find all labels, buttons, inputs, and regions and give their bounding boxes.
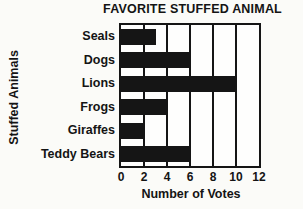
bar-teddy-bears <box>121 146 190 162</box>
category-label-teddy-bears: Teddy Bears <box>5 143 115 167</box>
category-label-frogs: Frogs <box>5 96 115 120</box>
plot-area <box>119 23 261 168</box>
gridline-10 <box>235 25 237 166</box>
category-label-seals: Seals <box>5 25 115 49</box>
bar-seals <box>121 29 156 45</box>
gridline-4 <box>166 25 168 166</box>
x-tick-label-8: 8 <box>202 170 224 184</box>
x-tick-label-12: 12 <box>248 170 270 184</box>
gridline-8 <box>212 25 214 166</box>
category-label-dogs: Dogs <box>5 49 115 73</box>
x-tick-label-4: 4 <box>156 170 178 184</box>
x-axis-label: Number of Votes <box>120 187 262 201</box>
bar-dogs <box>121 52 190 68</box>
bar-giraffes <box>121 123 144 139</box>
category-label-giraffes: Giraffes <box>5 119 115 143</box>
bar-lions <box>121 76 236 92</box>
x-tick-label-2: 2 <box>133 170 155 184</box>
x-tick-label-10: 10 <box>225 170 247 184</box>
gridline-2 <box>143 25 145 166</box>
x-tick-label-6: 6 <box>179 170 201 184</box>
x-tick-label-0: 0 <box>110 170 132 184</box>
chart: FAVORITE STUFFED ANIMAL Stuffed Animals … <box>0 0 303 209</box>
bar-frogs <box>121 99 167 115</box>
gridline-6 <box>189 25 191 166</box>
chart-title: FAVORITE STUFFED ANIMAL <box>85 2 300 16</box>
category-label-lions: Lions <box>5 72 115 96</box>
